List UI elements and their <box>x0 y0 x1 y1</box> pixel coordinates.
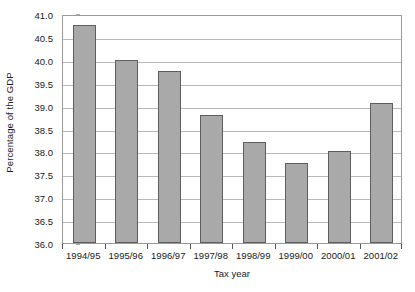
bar <box>200 115 223 243</box>
x-axis-tick-label: 2000/01 <box>321 250 355 261</box>
y-axis-tick-label: 36.5 <box>35 216 54 227</box>
x-axis-tick-label: 2001/02 <box>364 250 398 261</box>
y-axis-tick-label: 37.0 <box>35 193 54 204</box>
y-axis-tick-label: 38.5 <box>35 124 54 135</box>
x-axis-tick-mark <box>360 244 361 249</box>
x-axis-title: Tax year <box>62 268 402 279</box>
x-axis-tick-mark <box>317 244 318 249</box>
bar <box>243 142 266 243</box>
y-axis-tick-label: 39.0 <box>35 101 54 112</box>
y-axis-tick-label: 39.5 <box>35 78 54 89</box>
bar-chart: Percentage of the GDP 41.040.540.039.539… <box>0 0 415 292</box>
x-axis-tick-mark <box>190 244 191 249</box>
y-axis-title: Percentage of the GDP <box>0 0 18 244</box>
y-axis-tick-labels: 41.040.540.039.539.038.538.037.537.036.5… <box>18 15 58 244</box>
bar <box>73 25 96 243</box>
bar <box>328 151 351 243</box>
y-axis-tick-label: 36.0 <box>35 239 54 250</box>
x-axis-tick-label: 1998/99 <box>236 250 270 261</box>
x-axis-tick-label: 1994/95 <box>66 250 100 261</box>
y-axis-title-label: Percentage of the GDP <box>4 72 15 172</box>
x-axis-tick-label: 1997/98 <box>194 250 228 261</box>
x-axis-tick-mark <box>275 244 276 249</box>
y-axis-tick-label: 40.5 <box>35 32 54 43</box>
x-axis-tick-label: 1999/00 <box>279 250 313 261</box>
x-axis-tick-label: 1996/97 <box>151 250 185 261</box>
bar <box>370 103 393 243</box>
y-axis-tick-label: 40.0 <box>35 55 54 66</box>
x-axis-tick-mark <box>401 244 402 249</box>
bar <box>115 60 138 243</box>
plot-area <box>62 15 402 244</box>
x-axis-tick-mark <box>105 244 106 249</box>
x-axis-tick-mark <box>232 244 233 249</box>
bar-series <box>63 16 401 243</box>
y-axis-tick-label: 37.5 <box>35 170 54 181</box>
y-axis-tick-label: 38.0 <box>35 147 54 158</box>
x-axis-tick-marks <box>62 244 402 249</box>
bar <box>158 71 181 243</box>
x-axis-tick-mark <box>147 244 148 249</box>
bar <box>285 163 308 243</box>
y-axis-tick-label: 41.0 <box>35 10 54 21</box>
x-axis-tick-mark <box>62 244 63 249</box>
x-axis-tick-labels: 1994/951995/961996/971997/981998/991999/… <box>62 250 402 266</box>
x-axis-tick-label: 1995/96 <box>109 250 143 261</box>
